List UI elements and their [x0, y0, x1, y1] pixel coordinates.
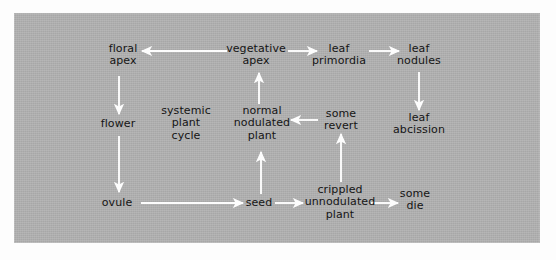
label-systemic_plant_cycle: systemic plant cycle: [161, 105, 211, 142]
node-flower: flower: [101, 118, 136, 130]
node-some_revert: some revert: [324, 108, 358, 133]
node-normal_nodulated: normal nodulated plant: [234, 105, 290, 142]
node-leaf_primordia: leaf primordia: [312, 43, 366, 68]
node-ovule: ovule: [102, 197, 133, 209]
node-crippled_plant: crippled unnodulated plant: [305, 184, 376, 221]
node-some_die: some die: [400, 188, 430, 213]
node-seed: seed: [246, 197, 273, 209]
diagram-canvas: floral apexvegetative apexleaf primordia…: [0, 0, 556, 260]
node-vegetative_apex: vegetative apex: [226, 43, 286, 68]
node-floral_apex: floral apex: [109, 43, 138, 68]
node-leaf_abcission: leaf abcission: [393, 112, 445, 137]
node-leaf_nodules: leaf nodules: [397, 43, 441, 68]
